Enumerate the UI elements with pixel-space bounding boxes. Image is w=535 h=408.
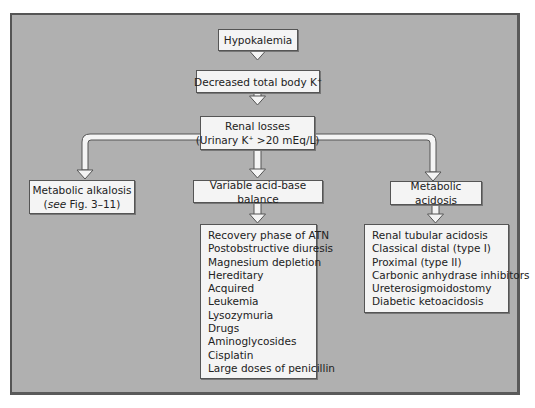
list-item: Carbonic anhydrase inhibitors [372,269,501,282]
list-item: Ureterosigmoidostomy [372,282,501,295]
arrow-down-icon [428,205,444,223]
node-label: Metabolic acidosis [391,179,481,207]
list-acidosis-causes: Renal tubular acidosis Classical distal … [364,224,509,313]
list-item: Large doses of penicillin [208,362,309,375]
node-label: Hypokalemia [224,33,293,47]
node-label-line2: (Urinary K+ >20 mEq/L) [196,133,320,147]
node-metabolic-alkalosis: Metabolic alkalosis (see Fig. 3–11) [29,180,135,214]
list-item: Recovery phase of ATN [208,229,309,242]
list-item: Acquired [208,282,309,295]
list-item: Proximal (type II) [372,256,501,269]
node-hypokalemia: Hypokalemia [218,29,298,51]
list-item: Postobstructive diuresis [208,242,309,255]
list-item: Diabetic ketoacidosis [372,295,501,308]
list-item: Renal tubular acidosis [372,229,501,242]
node-label: Decreased total body K+ [194,75,322,89]
arrow-down-icon [250,148,266,178]
node-label-line2: (see Fig. 3–11) [44,197,121,211]
list-item: Cisplatin [208,349,309,362]
list-variable-causes: Recovery phase of ATN Postobstructive di… [200,224,317,379]
list-item: Magnesium depletion [208,256,309,269]
list-item: Leukemia [208,295,309,308]
node-label-line1: Metabolic alkalosis [33,183,132,197]
node-decreased-total-body-k: Decreased total body K+ [196,70,320,93]
node-renal-losses: Renal losses (Urinary K+ >20 mEq/L) [200,116,315,150]
node-metabolic-acidosis: Metabolic acidosis [390,181,482,205]
list-item: Drugs [208,322,309,335]
node-variable-acid-base-balance: Variable acid-base balance [193,180,323,203]
list-item: Hereditary [208,269,309,282]
arrow-down-icon [250,203,266,223]
list-item: Aminoglycosides [208,335,309,348]
list-item: Classical distal (type I) [372,242,501,255]
list-item: Lysozymuria [208,309,309,322]
node-label-line1: Renal losses [225,119,290,133]
node-label: Variable acid-base balance [194,178,322,206]
